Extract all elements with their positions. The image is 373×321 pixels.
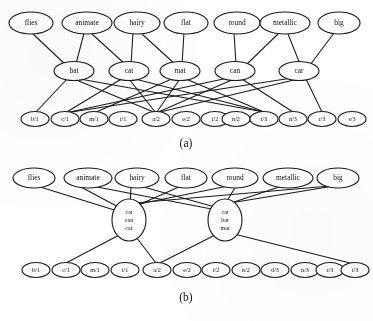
node-attr-hairy[interactable]: hairy — [114, 12, 160, 34]
node-letter-a-2[interactable]: m/1 — [80, 112, 108, 127]
node-attr-big-label: big — [334, 18, 344, 27]
node-hub-left-line-0: cat — [126, 209, 133, 215]
node-b-letter-5[interactable]: e/2 — [173, 263, 201, 278]
node-b-letter-3-label: t/1 — [122, 266, 129, 273]
edge-b-hubright-t3 — [230, 233, 350, 263]
node-word-can-label: can — [230, 66, 241, 75]
node-b-attr-animate[interactable]: animate — [64, 168, 112, 188]
panel-b-letter-nodes: b/1 c/1 m/1 t/1 a/2 e/2 — [22, 263, 369, 278]
node-word-mat[interactable]: mat — [160, 62, 200, 81]
node-hub-left-line-1: can — [125, 217, 133, 223]
panel-a-edges-word-letter — [35, 78, 322, 113]
edge-car-r3 — [306, 79, 322, 112]
edge-b-animate-hubright — [92, 186, 222, 211]
node-b-letter-11[interactable]: t/3 — [341, 263, 369, 278]
node-b-attr-hairy-label: hairy — [129, 173, 144, 182]
node-word-cat-label: cat — [125, 66, 135, 75]
edge-bat-b1 — [35, 78, 68, 113]
node-b-attr-metallic-label: metallic — [276, 173, 301, 182]
node-b-letter-0-label: b/1 — [32, 266, 40, 273]
edge-can-n3 — [242, 79, 293, 112]
node-b-attr-flies[interactable]: flies — [13, 168, 55, 188]
node-b-attr-round-label: round — [226, 173, 244, 182]
node-letter-a-5-label: e/2 — [182, 115, 190, 122]
node-letter-a-7[interactable]: n/2 — [222, 112, 250, 127]
node-letter-a-9-label: n/3 — [289, 115, 297, 122]
panel-b-caption: (b) — [179, 291, 193, 304]
node-letter-a-0-label: b/1 — [31, 115, 39, 122]
node-letter-a-11[interactable]: s/3 — [338, 112, 366, 127]
panel-a-letter-nodes: b/1 c/1 m/1 t/1 a/2 e/2 — [21, 112, 366, 127]
node-b-attr-hairy[interactable]: hairy — [115, 168, 159, 188]
node-word-can[interactable]: can — [215, 62, 255, 81]
node-b-letter-0[interactable]: b/1 — [22, 263, 50, 278]
node-b-letter-4[interactable]: a/2 — [143, 263, 171, 278]
edge-big-car — [310, 33, 334, 65]
node-b-letter-7[interactable]: n/2 — [232, 263, 260, 278]
node-b-letter-6[interactable]: i/2 — [202, 263, 230, 278]
node-b-letter-8-label: d/3 — [271, 266, 279, 273]
node-word-mat-label: mat — [174, 66, 186, 75]
node-letter-a-1[interactable]: c/1 — [51, 112, 79, 127]
node-word-bat[interactable]: bat — [54, 62, 94, 81]
node-letter-a-5[interactable]: e/2 — [172, 112, 200, 127]
node-hub-left[interactable]: cat can car — [112, 199, 146, 241]
node-hub-right[interactable]: cat bat mat — [208, 199, 242, 241]
node-word-bat-label: bat — [69, 66, 79, 75]
edge-animate-cat — [92, 34, 126, 65]
node-b-letter-9[interactable]: n/3 — [291, 263, 319, 278]
node-letter-a-8[interactable]: t/3 — [250, 112, 278, 127]
node-letter-a-10-label: r/3 — [319, 115, 326, 122]
panel-a-word-nodes: bat cat mat can car — [54, 62, 319, 81]
node-b-letter-11-label: t/3 — [352, 266, 359, 273]
node-b-letter-6-label: i/2 — [213, 266, 220, 273]
edge-metallic-can — [246, 34, 278, 65]
node-attr-flies-label: flies — [25, 18, 38, 27]
panel-b: flies animate hairy flat round metallic — [13, 168, 369, 304]
node-hub-right-line-1: bat — [221, 217, 229, 223]
node-b-attr-round[interactable]: round — [212, 168, 258, 188]
node-b-attr-flat[interactable]: flat — [165, 168, 207, 188]
node-b-letter-1-label: c/1 — [62, 266, 70, 273]
node-word-cat[interactable]: cat — [109, 62, 149, 81]
node-hub-right-line-2: mat — [221, 225, 230, 231]
node-b-attr-big[interactable]: big — [317, 168, 359, 188]
node-b-letter-2[interactable]: m/1 — [81, 263, 109, 278]
node-letter-a-3-label: t/1 — [120, 115, 127, 122]
node-attr-flat[interactable]: flat — [164, 12, 208, 34]
panel-b-edges-hub-letter — [66, 233, 350, 263]
panel-b-edges-attr-hub — [37, 186, 334, 213]
node-word-car-label: car — [294, 66, 304, 75]
node-hub-left-line-2: car — [125, 225, 132, 231]
node-attr-big[interactable]: big — [318, 12, 360, 34]
edge-animate-bat — [76, 33, 84, 64]
node-attr-animate-label: animate — [75, 18, 99, 27]
node-b-letter-10[interactable]: r/3 — [316, 263, 344, 278]
panel-b-hub-nodes: cat can car cat bat mat — [112, 199, 242, 241]
node-attr-round[interactable]: round — [214, 12, 260, 34]
node-b-letter-9-label: n/3 — [301, 266, 309, 273]
edge-b-big-hubright — [230, 186, 334, 203]
edge-b-metallic-hubright — [228, 186, 282, 204]
node-b-letter-8[interactable]: d/3 — [261, 263, 289, 278]
node-b-letter-1[interactable]: c/1 — [52, 263, 80, 278]
node-attr-flat-label: flat — [181, 18, 192, 27]
node-letter-a-3[interactable]: t/1 — [109, 112, 137, 127]
node-attr-hairy-label: hairy — [129, 18, 144, 27]
node-b-letter-3[interactable]: t/1 — [111, 263, 139, 278]
node-letter-a-10[interactable]: r/3 — [308, 112, 336, 127]
node-b-attr-animate-label: animate — [76, 173, 100, 182]
node-word-car[interactable]: car — [279, 62, 319, 81]
node-b-letter-5-label: e/2 — [183, 266, 191, 273]
node-attr-metallic[interactable]: metallic — [260, 12, 310, 34]
edge-flat-mat — [182, 33, 184, 64]
edge-hairy-cat — [131, 33, 133, 64]
node-attr-animate[interactable]: animate — [62, 12, 112, 34]
node-letter-a-2-label: m/1 — [89, 115, 99, 122]
node-letter-a-0[interactable]: b/1 — [21, 112, 49, 127]
node-attr-flies[interactable]: flies — [9, 12, 53, 34]
node-letter-a-9[interactable]: n/3 — [279, 112, 307, 127]
node-b-attr-metallic[interactable]: metallic — [263, 168, 313, 188]
node-letter-a-4[interactable]: a/2 — [142, 112, 170, 127]
node-b-letter-4-label: a/2 — [153, 266, 161, 273]
